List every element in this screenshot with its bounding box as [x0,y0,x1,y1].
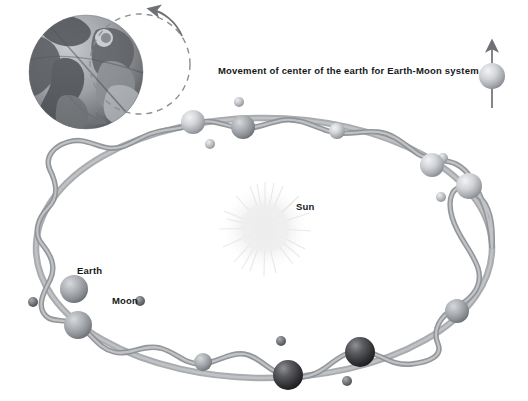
sun-label: Sun [296,201,315,212]
earth-moon-orbit-figure: Movement of center of the earth for Eart… [0,0,528,401]
diagram-canvas [0,0,528,401]
moon-orbit-arrow-top [150,9,182,36]
earth-globe-inset [15,8,146,132]
spin-axis-sphere [479,42,505,108]
earth-label: Earth [77,265,102,276]
system-caption-label: Movement of center of the earth for Eart… [218,65,479,76]
sun-glow [219,182,311,276]
moon-label: Moon [112,295,138,306]
